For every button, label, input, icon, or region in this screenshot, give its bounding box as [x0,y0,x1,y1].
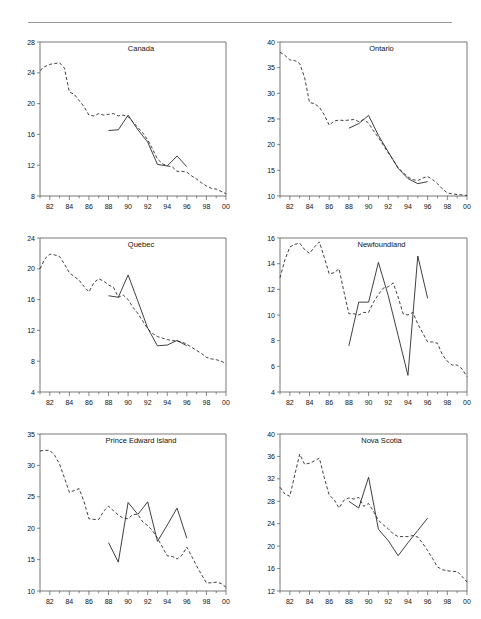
plot-frame [40,42,226,196]
x-tick-label: 96 [424,598,432,605]
chart-canada: 8121620242882848688909294969800Canada [0,28,240,224]
y-tick-label: 16 [27,296,35,303]
x-tick-label: 92 [144,399,152,406]
chart-nova-scotia: 121620242832364082848688909294969800Nova… [240,420,481,619]
y-tick-label: 25 [267,116,275,123]
y-tick-label: 20 [267,141,275,148]
series-solid [349,115,428,183]
x-tick-label: 98 [443,399,451,406]
x-tick-label: 88 [105,203,113,210]
y-tick-label: 6 [271,363,275,370]
x-tick-label: 86 [85,399,93,406]
x-tick-label: 82 [46,203,54,210]
x-tick-label: 98 [203,203,211,210]
y-tick-label: 10 [27,588,35,595]
panel-title: Quebec [128,240,155,249]
y-tick-label: 16 [27,131,35,138]
y-tick-label: 36 [267,453,275,460]
x-tick-label: 96 [424,203,432,210]
plot-frame [280,42,467,196]
x-tick-label: 90 [365,399,373,406]
y-tick-label: 20 [267,543,275,550]
x-tick-label: 92 [384,598,392,605]
x-tick-label: 90 [124,598,132,605]
panel-title: Newfoundland [358,240,406,249]
y-tick-label: 40 [267,39,275,46]
chart-newfoundland: 4681012141682848688909294969800Newfoundl… [240,224,481,420]
x-tick-label: 82 [46,399,54,406]
chart-prince-edward-island: 10152025303582848688909294969800Prince E… [0,420,240,619]
x-tick-label: 84 [306,203,314,210]
chart-quebec: 481216202482848688909294969800Quebec [0,224,240,420]
x-tick-label: 88 [105,399,113,406]
x-tick-label: 98 [203,399,211,406]
x-tick-label: 98 [203,598,211,605]
y-tick-label: 4 [31,389,35,396]
x-tick-label: 92 [144,598,152,605]
y-tick-label: 4 [271,389,275,396]
y-tick-label: 12 [27,162,35,169]
y-tick-label: 15 [27,556,35,563]
header-divider [28,22,452,23]
y-tick-label: 16 [267,235,275,242]
x-tick-label: 92 [384,399,392,406]
chart-ontario: 1015202530354082848688909294969800Ontari… [240,28,481,224]
x-tick-label: 00 [222,203,230,210]
x-tick-label: 88 [345,399,353,406]
series-dashed [280,52,467,195]
x-tick-label: 92 [384,203,392,210]
x-tick-label: 94 [404,598,412,605]
x-tick-label: 98 [443,598,451,605]
y-tick-label: 24 [27,69,35,76]
panel-grid: 8121620242882848688909294969800Canada 10… [0,28,481,619]
x-tick-label: 96 [424,399,432,406]
x-tick-label: 00 [463,203,471,210]
plot-frame [40,238,226,392]
y-tick-label: 20 [27,525,35,532]
panel-quebec: 481216202482848688909294969800Quebec [0,224,240,420]
x-tick-label: 90 [365,598,373,605]
y-tick-label: 30 [267,90,275,97]
x-tick-label: 96 [183,399,191,406]
y-tick-label: 8 [271,337,275,344]
y-tick-label: 12 [267,588,275,595]
y-tick-label: 12 [267,286,275,293]
x-tick-label: 90 [124,399,132,406]
x-tick-label: 82 [286,399,294,406]
series-dashed [280,454,467,582]
y-tick-label: 28 [27,39,35,46]
series-dashed [40,254,226,363]
panel-ontario: 1015202530354082848688909294969800Ontari… [240,28,481,224]
series-solid [109,275,187,346]
x-tick-label: 82 [46,598,54,605]
x-tick-label: 86 [85,203,93,210]
x-tick-label: 84 [65,203,73,210]
x-tick-label: 84 [306,399,314,406]
panel-nova-scotia: 121620242832364082848688909294969800Nova… [240,420,481,619]
y-tick-label: 40 [267,431,275,438]
x-tick-label: 94 [163,598,171,605]
x-tick-label: 96 [183,598,191,605]
x-tick-label: 84 [306,598,314,605]
series-solid [349,256,428,375]
x-tick-label: 84 [65,399,73,406]
y-tick-label: 24 [27,235,35,242]
y-tick-label: 12 [27,327,35,334]
y-tick-label: 28 [267,498,275,505]
x-tick-label: 88 [345,598,353,605]
x-tick-label: 88 [105,598,113,605]
y-tick-label: 8 [31,358,35,365]
panel-title: Canada [128,44,155,53]
plot-frame [280,238,467,392]
x-tick-label: 94 [163,203,171,210]
y-tick-label: 20 [27,265,35,272]
panel-newfoundland: 4681012141682848688909294969800Newfoundl… [240,224,481,420]
x-tick-label: 86 [325,203,333,210]
y-tick-label: 25 [27,493,35,500]
x-tick-label: 94 [404,203,412,210]
x-tick-label: 96 [183,203,191,210]
x-tick-label: 98 [443,203,451,210]
x-tick-label: 90 [124,203,132,210]
x-tick-label: 00 [222,598,230,605]
x-tick-label: 92 [144,203,152,210]
